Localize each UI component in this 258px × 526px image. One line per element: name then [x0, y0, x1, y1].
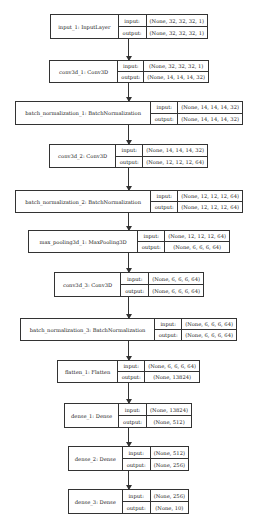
edge-arrow [128, 471, 129, 489]
input-label: input: [123, 490, 151, 501]
output-shape: (None, 14, 14, 14, 32) [178, 114, 242, 125]
edge-arrow [128, 213, 129, 230]
edge-arrow [128, 83, 129, 101]
output-shape: (None, 6, 6, 6, 64) [182, 330, 236, 340]
node-max-pooling3d-1: max_pooling3d_1: MaxPooling3D input:(Non… [28, 230, 230, 253]
node-label: dense_3: Dense [69, 490, 123, 513]
node-label: batch_normalization_2: BatchNormalizatio… [16, 191, 151, 212]
input-label: input: [138, 231, 165, 241]
output-label: output: [119, 27, 147, 38]
input-label: input: [121, 273, 149, 284]
output-label: output: [118, 72, 144, 82]
output-shape: (None, 12, 12, 12, 64) [143, 157, 207, 168]
output-shape: (None, 10) [151, 502, 188, 513]
output-shape: (None, 32, 32, 32, 1) [147, 27, 207, 38]
output-label: output: [155, 330, 182, 340]
output-shape: (None, 256) [151, 459, 188, 470]
node-conv3d-1: conv3d_1: Conv3D input:(None, 32, 32, 32… [49, 60, 209, 83]
node-label: conv3d_2: Conv3D [50, 145, 116, 167]
output-shape: (None, 12, 12, 12, 64) [178, 202, 242, 212]
input-shape: (None, 32, 32, 32, 1) [144, 61, 208, 71]
input-label: input: [119, 404, 147, 415]
edge-arrow [128, 125, 129, 144]
output-shape: (None, 512) [147, 416, 191, 427]
node-conv3d-3: conv3d_3: Conv3D input:(None, 6, 6, 6, 6… [54, 272, 204, 297]
input-label: input: [119, 15, 147, 26]
input-label: input: [151, 102, 178, 113]
output-label: output: [119, 416, 147, 427]
node-batch-normalization-1: batch_normalization_1: BatchNormalizatio… [15, 101, 243, 125]
node-dense-1: dense_1: Dense input:(None, 13824) outpu… [64, 403, 192, 428]
edge-arrow [128, 39, 129, 60]
node-label: dense_1: Dense [65, 404, 119, 427]
node-label: dense_2: Dense [69, 447, 123, 470]
input-shape: (None, 6, 6, 6, 64) [145, 361, 199, 371]
output-label: output: [151, 202, 178, 212]
input-shape: (None, 14, 14, 14, 32) [178, 102, 242, 113]
input-label: input: [118, 361, 145, 371]
node-flatten-1: flatten_1: Flatten input:(None, 6, 6, 6,… [57, 360, 200, 383]
input-label: input: [116, 145, 143, 156]
input-shape: (None, 13824) [147, 404, 191, 415]
output-shape: (None, 14, 14, 14, 32) [144, 72, 208, 82]
output-label: output: [118, 372, 145, 382]
input-label: input: [155, 319, 182, 329]
input-shape: (None, 14, 14, 14, 32) [143, 145, 207, 156]
edge-arrow [128, 253, 129, 272]
node-label: flatten_1: Flatten [58, 361, 118, 382]
node-label: batch_normalization_3: BatchNormalizatio… [21, 319, 155, 340]
node-dense-2: dense_2: Dense input:(None, 512) output:… [68, 446, 189, 471]
input-shape: (None, 12, 12, 12, 64) [178, 191, 242, 201]
node-label: conv3d_3: Conv3D [55, 273, 121, 296]
output-label: output: [123, 459, 151, 470]
input-shape: (None, 6, 6, 6, 64) [149, 273, 203, 284]
output-label: output: [121, 285, 149, 296]
edge-arrow [128, 168, 129, 190]
node-dense-3: dense_3: Dense input:(None, 256) output:… [68, 489, 189, 514]
node-conv3d-2: conv3d_2: Conv3D input:(None, 14, 14, 14… [49, 144, 208, 168]
edge-arrow [128, 297, 129, 318]
output-label: output: [138, 242, 165, 252]
output-label: output: [151, 114, 178, 125]
node-batch-normalization-3: batch_normalization_3: BatchNormalizatio… [20, 318, 237, 341]
node-label: max_pooling3d_1: MaxPooling3D [29, 231, 138, 252]
input-shape: (None, 6, 6, 6, 64) [182, 319, 236, 329]
input-label: input: [123, 447, 151, 458]
node-input-1: input_1: InputLayer input:(None, 32, 32,… [50, 14, 208, 39]
input-shape: (None, 12, 12, 12, 64) [165, 231, 229, 241]
edge-arrow [128, 428, 129, 446]
node-label: input_1: InputLayer [51, 15, 119, 38]
output-shape: (None, 13824) [145, 372, 199, 382]
output-label: output: [123, 502, 151, 513]
output-label: output: [116, 157, 143, 168]
input-label: input: [151, 191, 178, 201]
edge-arrow [128, 341, 129, 360]
output-shape: (None, 6, 6, 6, 64) [165, 242, 229, 252]
output-shape: (None, 6, 6, 6, 64) [149, 285, 203, 296]
input-shape: (None, 256) [151, 490, 188, 501]
edge-arrow [128, 383, 129, 403]
node-batch-normalization-2: batch_normalization_2: BatchNormalizatio… [15, 190, 243, 213]
input-shape: (None, 512) [151, 447, 188, 458]
node-label: batch_normalization_1: BatchNormalizatio… [16, 102, 151, 124]
node-label: conv3d_1: Conv3D [50, 61, 118, 82]
input-shape: (None, 32, 32, 32, 1) [147, 15, 207, 26]
input-label: input: [118, 61, 144, 71]
